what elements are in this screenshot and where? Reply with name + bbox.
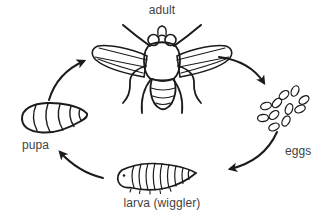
adult-insect-illustration (92, 25, 231, 113)
pupa-illustration (22, 103, 87, 133)
life-cycle-diagram: adult eggs larva (wiggler) pupa (0, 0, 321, 217)
arrow-pupa-to-adult (49, 61, 84, 100)
diagram-artwork (0, 0, 321, 217)
label-pupa: pupa (22, 139, 49, 152)
arrow-larva-to-pupa (60, 152, 103, 178)
label-larva: larva (wiggler) (108, 197, 216, 210)
larva-illustration (118, 163, 196, 194)
label-eggs: eggs (285, 145, 311, 158)
egg-cluster-illustration (257, 85, 310, 133)
label-adult: adult (130, 4, 194, 17)
arrow-eggs-to-larva (230, 132, 277, 169)
